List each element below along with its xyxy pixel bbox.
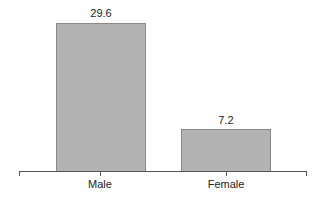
bar-female — [181, 129, 271, 172]
x-axis-tick-female — [226, 171, 227, 176]
bar-male — [56, 23, 146, 172]
chart: 29.6 7.2 Male Female — [0, 0, 322, 200]
x-axis-tick-male — [100, 171, 101, 176]
x-tick-label-male: Male — [55, 178, 145, 190]
x-axis-line — [19, 171, 307, 172]
bar-value-label-female: 7.2 — [181, 114, 271, 126]
x-axis-tick-right — [306, 171, 307, 176]
x-tick-label-female: Female — [181, 178, 271, 190]
x-axis-tick-left — [19, 171, 20, 176]
bar-value-label-male: 29.6 — [56, 7, 146, 19]
